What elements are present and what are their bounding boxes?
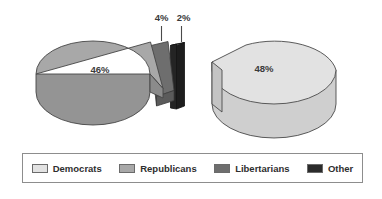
legend-swatch-other (307, 164, 323, 173)
slice-democrats-cut-face (212, 62, 222, 112)
slice-democrats-top (212, 41, 336, 104)
legend-swatch-republicans (119, 164, 135, 173)
legend-label-republicans: Republicans (140, 163, 197, 174)
label-libertarians-pct: 4% (155, 12, 169, 23)
slice-democrats (212, 41, 336, 138)
legend-item-other[interactable]: Other (307, 163, 353, 174)
label-other-pct: 2% (177, 12, 191, 23)
slice-republicans (36, 41, 163, 125)
legend-item-democrats[interactable]: Democrats (32, 163, 102, 174)
label-republicans-pct: 46% (90, 64, 110, 75)
legend-label-other: Other (328, 163, 353, 174)
legend-item-republicans[interactable]: Republicans (119, 163, 197, 174)
slice-republicans-side (36, 74, 150, 125)
chart-legend: Democrats Republicans Libertarians Other (22, 153, 363, 183)
slice-other-side (177, 43, 185, 110)
label-democrats-pct: 48% (254, 63, 274, 74)
legend-swatch-democrats (32, 164, 48, 173)
legend-item-libertarians[interactable]: Libertarians (214, 163, 289, 174)
legend-swatch-libertarians (214, 164, 230, 173)
legend-label-libertarians: Libertarians (235, 163, 289, 174)
legend-label-democrats: Democrats (53, 163, 102, 174)
